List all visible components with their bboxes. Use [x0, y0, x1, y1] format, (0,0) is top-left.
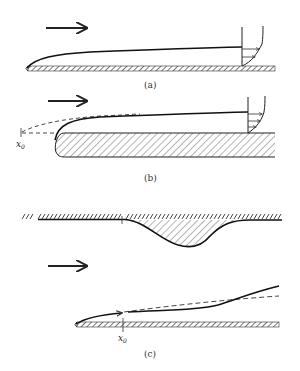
boundary-layer-edge: [27, 47, 242, 68]
velocity-profile: [242, 26, 263, 66]
panel-caption: (c): [144, 349, 156, 359]
thick-plate: [55, 133, 275, 157]
velocity-profile: [248, 96, 265, 133]
bump-hatch: [125, 220, 250, 247]
panel-c: x0 (c): [22, 214, 282, 359]
origin-label: x0: [16, 139, 25, 150]
boundary-layer-diagram: (a) x0 (b): [0, 0, 300, 371]
panel-caption: (a): [144, 80, 156, 90]
flat-plate: [77, 322, 279, 327]
virtual-bl-dashed: [124, 296, 279, 312]
origin-label: x0: [118, 333, 127, 344]
panel-b: x0 (b): [16, 96, 275, 183]
flat-plate: [28, 66, 275, 71]
panel-caption: (b): [144, 173, 157, 183]
upper-wall-hatch: [22, 214, 281, 219]
panel-a: (a): [26, 26, 275, 90]
